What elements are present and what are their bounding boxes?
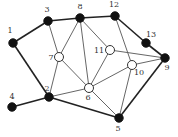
edge-7-6 xyxy=(59,57,89,88)
node-7 xyxy=(55,53,64,62)
node-label-5: 5 xyxy=(115,124,120,133)
node-label-12: 12 xyxy=(109,0,119,9)
edge-3-7 xyxy=(48,21,59,57)
edge-3-8 xyxy=(48,18,80,21)
graph-diagram: 12345678910111213 xyxy=(0,0,178,137)
node-label-9: 9 xyxy=(164,63,169,72)
edge-4-2 xyxy=(12,97,49,107)
node-label-6: 6 xyxy=(85,93,90,102)
node-label-10: 10 xyxy=(134,68,144,77)
node-label-1: 1 xyxy=(7,26,12,35)
node-8 xyxy=(76,14,84,22)
edge-2-6 xyxy=(49,88,89,97)
node-3 xyxy=(44,17,52,25)
node-2 xyxy=(45,93,53,101)
edge-7-8 xyxy=(59,18,80,57)
node-label-2: 2 xyxy=(44,84,49,93)
node-label-13: 13 xyxy=(146,30,156,39)
node-6 xyxy=(85,84,94,93)
node-label-8: 8 xyxy=(77,2,82,11)
edge-1-3 xyxy=(13,21,48,43)
node-label-4: 4 xyxy=(9,92,14,101)
edge-8-6 xyxy=(80,18,89,88)
node-4 xyxy=(8,103,16,111)
node-11 xyxy=(106,46,115,55)
node-1 xyxy=(9,39,17,47)
edge-7-2 xyxy=(49,57,59,97)
nodes-layer xyxy=(8,12,169,122)
node-9 xyxy=(161,54,169,62)
labels-layer: 12345678910111213 xyxy=(7,0,169,133)
edge-8-12 xyxy=(80,16,115,18)
node-12 xyxy=(111,12,119,20)
edges-layer xyxy=(12,16,165,118)
node-5 xyxy=(115,114,123,122)
node-13 xyxy=(142,39,150,47)
node-label-11: 11 xyxy=(94,46,104,55)
node-label-7: 7 xyxy=(48,53,53,62)
node-label-3: 3 xyxy=(44,5,49,14)
